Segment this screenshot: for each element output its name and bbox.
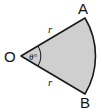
point-label-a: A	[78, 0, 88, 17]
radius-label-bottom: r	[48, 76, 53, 88]
point-label-o: O	[4, 48, 16, 65]
sector-diagram: O A B r r θ°	[0, 0, 102, 112]
angle-label: θ°	[29, 52, 37, 62]
point-label-b: B	[80, 94, 90, 111]
radius-label-top: r	[48, 23, 53, 35]
